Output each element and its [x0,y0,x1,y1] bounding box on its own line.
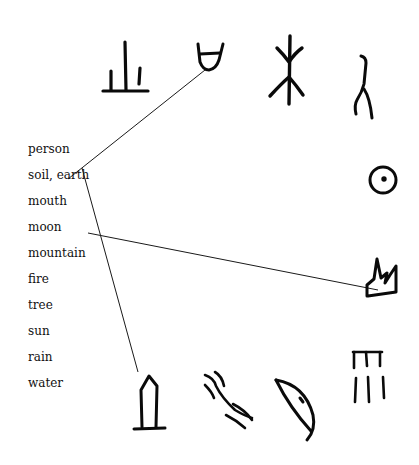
person-glyph [355,56,372,118]
moon-glyph [276,380,314,440]
water-glyph [205,372,252,428]
matching-diagram: person soil, earth mouth moon mountain f… [0,0,419,465]
connection-mouth [68,70,205,179]
connection-soil-earth [82,168,138,372]
bottom-1-glyph [134,376,165,429]
connection-mountain [88,233,378,290]
rain-glyph [353,352,384,402]
mouth-glyph [198,44,223,70]
soil-earth-glyph [103,42,148,91]
glyphs-and-connections [0,0,419,465]
sun-glyph [370,167,396,193]
mountain-glyph [367,259,396,296]
tree-glyph [270,36,303,104]
